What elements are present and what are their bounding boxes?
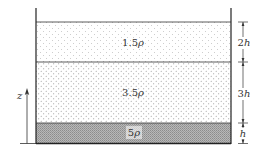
z-axis: z [16,88,36,144]
z-axis-label: z [16,90,23,101]
thickness-label-top: 2h [238,37,251,48]
svg-text:2h: 2h [238,37,251,48]
stratified-fluid-diagram: 1.5ρ 3.5ρ 5ρ z 2h 3h h [0,0,261,155]
svg-text:5ρ: 5ρ [128,127,140,138]
svg-text:3.5ρ: 3.5ρ [122,87,144,98]
density-label-top: 1.5ρ [122,37,144,48]
density-label-middle: 3.5ρ [122,87,144,98]
thickness-label-middle: 3h [238,88,251,99]
svg-text:1.5ρ: 1.5ρ [122,37,144,48]
svg-text:3h: 3h [238,88,251,99]
svg-text:h: h [240,128,246,139]
density-label-bottom: 5ρ [128,127,140,138]
thickness-label-bottom: h [240,128,246,139]
